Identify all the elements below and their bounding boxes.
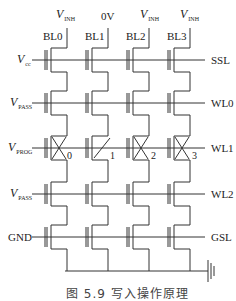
bl1-label: BL1 <box>85 31 105 42</box>
ground-icon <box>208 260 214 282</box>
ssl-bias: Vcc <box>17 54 31 70</box>
wl1-label: WL1 <box>211 143 234 154</box>
bl3-voltage: VINH <box>180 9 199 25</box>
wl2-bias: VPASS <box>10 188 32 204</box>
bl2-label: BL2 <box>126 31 146 42</box>
cell-3-number: 3 <box>192 150 197 161</box>
bl0-voltage: VINH <box>56 9 75 25</box>
wl2-label: WL2 <box>211 189 234 200</box>
cell-2-number: 2 <box>151 150 156 161</box>
bl3-label: BL3 <box>167 31 187 42</box>
wl0-label: WL0 <box>211 98 234 109</box>
gsl-bias: GND <box>8 232 32 243</box>
gate-lines <box>32 60 205 237</box>
ssl-label: SSL <box>211 55 230 66</box>
bl0-label: BL0 <box>43 31 63 42</box>
bl1-voltage: 0V <box>101 11 114 22</box>
gsl-label: GSL <box>211 232 232 243</box>
cell-0-number: 0 <box>67 150 72 161</box>
wl0-bias: VPASS <box>10 97 32 113</box>
bl2-voltage: VINH <box>140 9 159 25</box>
figure-caption: 图 5.9 写入操作原理 <box>66 284 189 301</box>
cell-1-number: 1 <box>110 150 115 161</box>
wl1-bias: VPROG <box>8 142 32 158</box>
